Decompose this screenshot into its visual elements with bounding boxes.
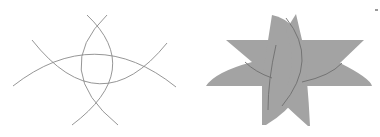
upper-horizontal-arc <box>13 54 176 87</box>
filled-star-figure <box>190 0 380 137</box>
lower-bowl-arc <box>32 40 167 84</box>
corner-mark <box>375 9 378 11</box>
outline-arc-figure <box>0 0 190 137</box>
